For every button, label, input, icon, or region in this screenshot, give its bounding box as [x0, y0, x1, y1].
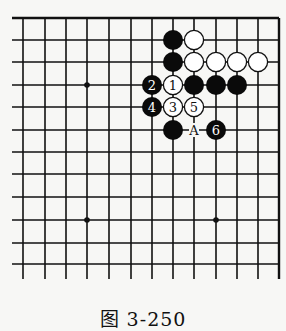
- move-number: 5: [190, 100, 198, 115]
- figure-caption: 图 3-250: [0, 304, 286, 331]
- black-stone: [163, 120, 183, 140]
- black-stone: [163, 30, 183, 50]
- black-stone-6: 6: [206, 120, 226, 140]
- star-point: [84, 217, 90, 223]
- white-stone-3: 3: [163, 97, 182, 116]
- black-stone: [227, 75, 247, 95]
- white-stone-5: 5: [184, 97, 203, 116]
- black-stone-2: 2: [142, 75, 162, 95]
- move-number: 4: [148, 100, 156, 115]
- white-stone: [248, 52, 267, 71]
- black-stone: [184, 75, 204, 95]
- go-board-diagram: 214356 A: [0, 0, 286, 290]
- black-stone-4: 4: [142, 97, 162, 117]
- white-stone-1: 1: [163, 75, 182, 94]
- black-stone: [206, 75, 226, 95]
- move-number: 1: [169, 78, 177, 93]
- white-stone: [184, 30, 203, 49]
- move-number: 2: [148, 78, 156, 93]
- black-stone: [163, 52, 183, 72]
- white-stone: [227, 52, 246, 71]
- move-number: 6: [212, 123, 220, 138]
- svg-text:A: A: [188, 123, 199, 138]
- star-point: [84, 82, 90, 88]
- point-marker-A: A: [188, 123, 199, 138]
- star-point: [213, 217, 219, 223]
- white-stone: [184, 52, 203, 71]
- markers-layer: A: [188, 123, 199, 138]
- move-number: 3: [169, 100, 177, 115]
- white-stone: [206, 52, 225, 71]
